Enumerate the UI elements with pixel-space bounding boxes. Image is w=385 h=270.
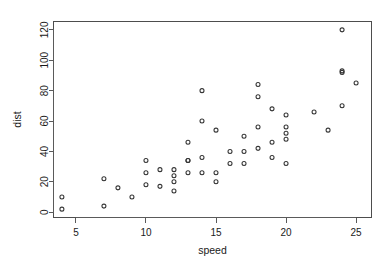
data-point: [284, 131, 288, 135]
y-axis-ticks: 020406080100120: [39, 21, 54, 215]
data-point: [284, 137, 288, 141]
data-point: [186, 159, 190, 163]
x-tick-label: 15: [210, 227, 222, 238]
data-point: [200, 171, 204, 175]
data-point: [158, 184, 162, 188]
data-point: [284, 162, 288, 166]
y-tick-label: 60: [39, 115, 50, 127]
data-points-group: [60, 28, 358, 211]
data-point: [214, 171, 218, 175]
data-point: [284, 125, 288, 129]
x-tick-label: 25: [351, 227, 363, 238]
data-point: [158, 168, 162, 172]
data-point: [270, 107, 274, 111]
data-point: [102, 204, 106, 208]
y-tick-label: 80: [39, 85, 50, 97]
x-tick-label: 20: [280, 227, 292, 238]
data-point: [228, 162, 232, 166]
data-point: [116, 186, 120, 190]
data-point: [144, 171, 148, 175]
data-point: [172, 189, 176, 193]
y-tick-label: 100: [39, 51, 50, 68]
data-point: [186, 171, 190, 175]
data-point: [256, 146, 260, 150]
data-point: [130, 195, 134, 199]
x-axis-title: speed: [198, 244, 227, 256]
data-point: [326, 128, 330, 132]
data-point: [284, 113, 288, 117]
data-point: [340, 104, 344, 108]
data-point: [270, 140, 274, 144]
y-tick-label: 20: [39, 176, 50, 188]
data-point: [172, 180, 176, 184]
data-point: [144, 183, 148, 187]
plot-frame: [54, 22, 372, 218]
data-point: [144, 159, 148, 163]
data-point: [242, 162, 246, 166]
y-tick-label: 0: [39, 209, 50, 215]
data-point: [214, 180, 218, 184]
plot-canvas: 020406080100120 510152025 speed dist: [0, 0, 385, 270]
data-point: [200, 89, 204, 93]
data-point: [102, 177, 106, 181]
data-point: [172, 168, 176, 172]
data-point: [242, 149, 246, 153]
x-axis-ticks: 510152025: [73, 218, 362, 239]
data-point: [186, 140, 190, 144]
data-point: [270, 155, 274, 159]
data-point: [312, 110, 316, 114]
data-point: [256, 125, 260, 129]
y-tick-label: 40: [39, 145, 50, 157]
data-point: [200, 119, 204, 123]
data-point: [256, 95, 260, 99]
data-point: [228, 149, 232, 153]
data-point: [256, 83, 260, 87]
data-point: [242, 134, 246, 138]
scatter-plot-figure: 020406080100120 510152025 speed dist: [0, 0, 385, 270]
x-tick-label: 10: [140, 227, 152, 238]
data-point: [354, 81, 358, 85]
data-point: [340, 28, 344, 32]
data-point: [60, 207, 64, 211]
data-point: [200, 155, 204, 159]
y-axis-title: dist: [11, 111, 23, 127]
y-tick-label: 120: [39, 21, 50, 38]
data-point: [172, 174, 176, 178]
data-point: [214, 128, 218, 132]
x-tick-label: 5: [73, 227, 79, 238]
plot-frame-group: [54, 22, 372, 218]
data-point: [60, 195, 64, 199]
